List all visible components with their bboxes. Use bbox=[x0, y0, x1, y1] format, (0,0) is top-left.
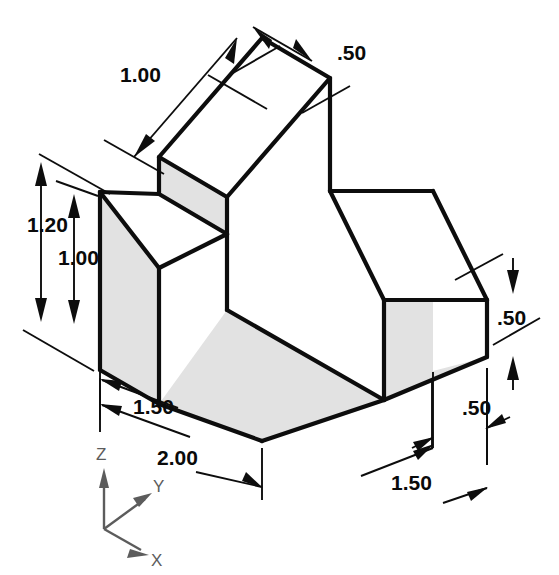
arrow-right-height-down bbox=[507, 270, 519, 294]
axis-indicator: Z Y X bbox=[96, 445, 164, 570]
dimension-step-height: 1.00 bbox=[56, 181, 99, 324]
dim-label-front-right-run: 1.50 bbox=[391, 471, 432, 494]
axis-label-x: X bbox=[151, 551, 162, 570]
dim-label-step-height: 1.00 bbox=[58, 246, 99, 269]
axis-label-y: Y bbox=[153, 477, 164, 496]
drawing-canvas: 1.00 .50 1.20 1.00 bbox=[0, 0, 559, 575]
arrow-overall-height-up bbox=[35, 162, 47, 186]
dim-label-overall-height: 1.20 bbox=[27, 213, 68, 236]
arrow-front-left bbox=[100, 404, 122, 416]
arrow-overall-height-down bbox=[35, 298, 47, 322]
arrow-right-height-up bbox=[507, 356, 519, 380]
axis-arrow-x bbox=[127, 549, 149, 558]
ext-line-height-bottom bbox=[23, 330, 94, 371]
dim-label-front-overall: 2.00 bbox=[157, 446, 198, 469]
isometric-part-drawing: 1.00 .50 1.20 1.00 bbox=[0, 0, 559, 575]
axis-arrow-z bbox=[99, 468, 109, 488]
arrow-step-height-down bbox=[68, 300, 80, 324]
face-front-bottom-slab bbox=[159, 310, 384, 441]
axis-label-z: Z bbox=[96, 445, 106, 464]
axis-line-x bbox=[104, 529, 141, 550]
arrow-front-right-right bbox=[467, 487, 488, 501]
dimension-front-right-run: 1.50 bbox=[361, 368, 488, 503]
dim-label-right-height: .50 bbox=[497, 306, 526, 329]
arrow-step-height-up bbox=[68, 194, 80, 218]
dim-label-top-depth: .50 bbox=[337, 41, 366, 64]
arrow-front-overall-left bbox=[100, 379, 122, 391]
dim-label-top-width: 1.00 bbox=[120, 63, 161, 86]
